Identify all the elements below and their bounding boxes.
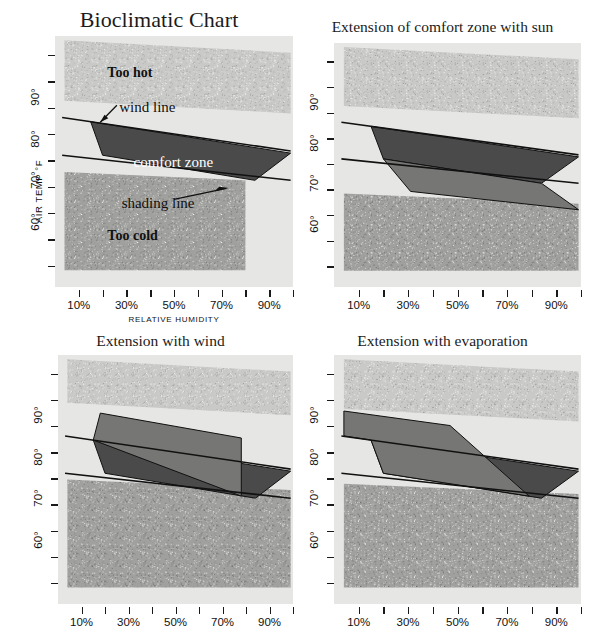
y-tick-label-90: 90° [308,395,320,435]
x-tick [507,290,508,297]
x-tick [556,290,557,297]
y-tick [327,374,334,375]
x-tick-label-70: 70% [487,299,527,311]
y-tick-label-90: 90° [32,395,44,435]
panel-title: Extension of comfort zone with sun [294,18,591,35]
y-tick [327,113,334,114]
x-tick [103,290,104,297]
x-tick [507,607,508,614]
y-tick [51,452,58,453]
y-tick [51,426,58,427]
panel-title: Extension with wind [18,332,303,349]
x-tick [150,290,151,297]
x-tick [126,290,127,297]
y-tick [327,215,334,216]
y-axis-title: AIR TEMP °F [33,147,44,237]
y-tick [48,239,55,240]
y-tick [327,61,334,62]
y-tick [327,87,334,88]
x-tick [105,607,106,614]
x-tick [176,607,177,614]
y-tick [51,557,58,558]
plot-area-extension-with-wind [58,355,293,604]
y-tick [48,160,55,161]
x-tick [433,290,434,297]
panel-title: Extension with evaporation [294,332,591,349]
x-tick-label-50: 50% [438,299,478,311]
x-tick [383,290,384,297]
y-tick [327,452,334,453]
y-tick-label-60: 60° [308,520,320,560]
y-tick-label-60: 60° [32,520,44,560]
y-tick-label-80: 80° [32,437,44,477]
y-tick [327,583,334,584]
annotation-wind-line: wind line [119,99,175,116]
region-too-hot [344,47,579,118]
x-tick-label-30: 30% [106,299,146,311]
x-tick [581,607,582,614]
x-tick-label-10: 10% [59,299,99,311]
x-tick [129,607,130,614]
y-tick [327,138,334,139]
x-tick [246,607,247,614]
y-tick [51,531,58,532]
y-tick [51,583,58,584]
annotation-comfort-zone: comfort zone [134,154,214,171]
y-tick [48,213,55,214]
x-tick-label-90: 90% [536,616,576,628]
x-tick [245,290,246,297]
panel-title: Bioclimatic Chart [15,8,303,32]
x-tick-label-10: 10% [339,616,379,628]
x-tick [222,290,223,297]
x-tick [174,290,175,297]
x-tick-label-30: 30% [388,299,428,311]
y-tick [327,504,334,505]
y-tick [48,108,55,109]
y-tick [327,426,334,427]
x-tick-label-30: 30% [388,616,428,628]
x-tick [532,290,533,297]
y-tick [51,504,58,505]
x-tick [383,607,384,614]
x-tick [293,607,294,614]
x-tick [223,607,224,614]
x-tick-label-70: 70% [202,299,242,311]
annotation-shading-line: shading line [122,195,195,212]
x-tick [482,290,483,297]
plot-area-extension-with-evaporation [334,355,581,604]
y-tick [48,55,55,56]
y-tick [48,134,55,135]
region-too-cold [344,484,579,588]
x-tick [581,290,582,297]
x-tick [199,607,200,614]
zone-label-too-hot: Too hot [107,65,152,81]
x-tick-label-30: 30% [109,616,149,628]
y-tick [327,266,334,267]
x-tick [408,607,409,614]
x-tick-label-90: 90% [249,299,289,311]
x-tick [359,290,360,297]
y-tick [327,531,334,532]
y-tick [327,557,334,558]
x-tick-label-50: 50% [156,616,196,628]
x-tick [152,607,153,614]
bioclimatic-figure: Bioclimatic Chartwind linecomfort zonesh… [0,0,597,640]
y-tick [327,241,334,242]
y-tick [48,81,55,82]
x-tick [458,290,459,297]
x-tick [293,290,294,297]
y-tick [327,478,334,479]
x-tick-label-70: 70% [487,616,527,628]
y-tick [51,400,58,401]
x-tick [82,607,83,614]
y-tick-label-60: 60° [308,204,320,244]
region-too-cold [65,172,246,270]
y-tick-label-70: 70° [308,163,320,203]
x-tick [269,290,270,297]
region-too-hot [65,40,291,113]
plot-area-extension-with-sun [334,43,581,287]
x-tick [458,607,459,614]
x-tick [532,607,533,614]
y-tick [48,187,55,188]
y-tick-label-70: 70° [308,478,320,518]
